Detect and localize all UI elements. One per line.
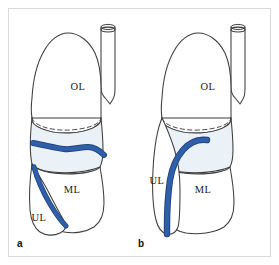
panel-a: OL ML UL a (17, 24, 115, 249)
panel-b-label-middle-lobe: ML (195, 184, 212, 195)
panel-a-upper-lobe (31, 33, 101, 118)
panel-b-letter: b (138, 238, 144, 249)
lung-lobe-diagram: OL ML UL a (0, 0, 279, 265)
panel-a-label-middle-lobe: ML (64, 184, 81, 195)
figure-root: OL ML UL a (0, 0, 279, 265)
panel-a-label-lower-lobe: UL (32, 212, 47, 223)
panel-b-label-lower-lobe: UL (150, 175, 165, 186)
panel-a-label-upper-lobe: OL (71, 81, 86, 92)
panel-b-label-upper-lobe: OL (201, 81, 216, 92)
panel-a-letter: a (17, 238, 23, 249)
panel-b: OL ML UL b (138, 24, 245, 249)
panel-b-upper-lobe (161, 33, 231, 118)
